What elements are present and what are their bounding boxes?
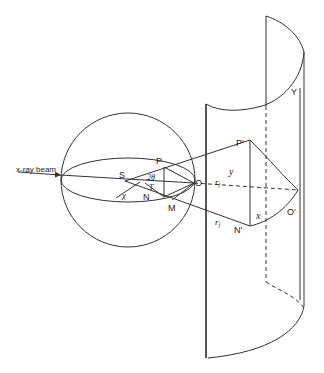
label-p-prime: P′ [236, 138, 244, 148]
curve-p-prime-o-prime [250, 140, 298, 190]
beam-label: x-ray beam [16, 165, 56, 174]
label-o-prime: O′ [287, 207, 296, 217]
cylinder-bottom-arc [208, 306, 304, 358]
cylindrical-film [206, 16, 304, 358]
label-m: M [168, 203, 176, 213]
label-rf-lower: rf [215, 217, 222, 228]
label-two-theta: 2θ [147, 173, 155, 182]
label-o: O [195, 178, 202, 188]
label-y: y [228, 166, 234, 177]
diffraction-diagram: x-ray beam S P N M O 2θ T χ P′ N′ O′ Y y… [0, 0, 324, 373]
label-n-prime: N′ [234, 225, 242, 235]
cylinder-top-arc-front [206, 52, 304, 110]
ray-to-o-prime [194, 183, 298, 190]
cylinder-top-arc-back [266, 16, 304, 52]
segment-po [164, 167, 194, 183]
label-x: x [255, 210, 261, 221]
label-s: S [119, 170, 125, 180]
chi-pointer [116, 182, 140, 198]
cylinder-bottom-arc-hidden [266, 282, 304, 308]
diffraction-rays [116, 140, 298, 226]
label-rf-upper: rf [215, 177, 222, 188]
label-n: N [143, 192, 150, 202]
label-tau: T [149, 183, 154, 192]
label-p: P [156, 156, 162, 166]
label-y-axis: Y [291, 87, 297, 97]
